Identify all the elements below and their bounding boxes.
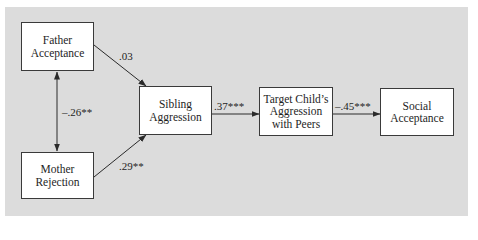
- node-label-line: Acceptance: [390, 112, 444, 125]
- edge-label-father-mother: –.26**: [62, 106, 92, 118]
- node-label-line: Father: [31, 34, 85, 47]
- node-label-line: with Peers: [263, 118, 328, 131]
- node-target-child-aggression: Target Child’s Aggression with Peers: [259, 87, 333, 136]
- edge-label-target-social: –.45***: [335, 100, 371, 112]
- node-sibling-aggression: Sibling Aggression: [139, 86, 212, 135]
- node-label-line: Aggression: [149, 111, 201, 124]
- edge-label-sibling-target: .37***: [214, 100, 244, 112]
- node-label-line: Rejection: [35, 176, 79, 189]
- node-label-line: Acceptance: [31, 47, 85, 60]
- node-label-line: Mother: [35, 163, 79, 176]
- node-father-acceptance: Father Acceptance: [21, 22, 94, 71]
- node-mother-rejection: Mother Rejection: [21, 152, 94, 199]
- node-label-line: Aggression: [263, 105, 328, 118]
- node-label-line: Target Child’s: [263, 93, 328, 106]
- edge-label-mother-sibling: .29**: [119, 160, 144, 172]
- node-social-acceptance: Social Acceptance: [380, 88, 454, 136]
- node-label-line: Sibling: [149, 98, 201, 111]
- edge-label-father-sibling: .03: [119, 50, 133, 62]
- node-label-line: Social: [390, 100, 444, 113]
